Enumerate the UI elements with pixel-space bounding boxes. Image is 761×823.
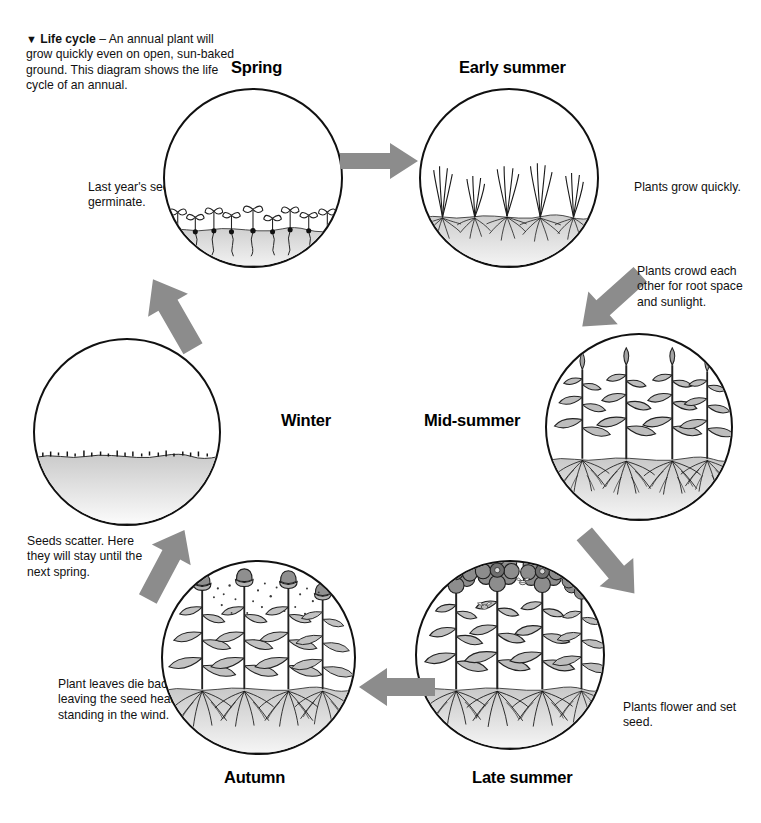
note-late-summer: Plants flower and set seed.: [623, 700, 743, 731]
arrow-winter-to-spring: [138, 268, 208, 360]
arrow-spring-to-early-summer: [338, 140, 420, 182]
winter-illustration: [35, 340, 219, 524]
spring-illustration: [165, 90, 341, 266]
season-label-late-summer: Late summer: [472, 768, 573, 787]
figure-caption: ▼ Life cycle – An annual plant will grow…: [26, 32, 241, 94]
note-early-summer: Plants grow quickly.: [634, 180, 759, 195]
stage-circle-early-summer: [419, 88, 599, 268]
season-label-early-summer: Early summer: [459, 58, 566, 77]
life-cycle-diagram: ▼ Life cycle – An annual plant will grow…: [0, 0, 761, 823]
season-label-mid-summer: Mid-summer: [424, 411, 520, 430]
caption-triangle-icon: ▼: [26, 33, 37, 45]
stage-circle-mid-summer: [545, 333, 733, 521]
late-summer-illustration: [417, 562, 603, 748]
season-label-autumn: Autumn: [224, 768, 285, 787]
early-summer-illustration: [421, 90, 597, 266]
season-label-spring: Spring: [231, 58, 282, 77]
stage-circle-winter: [33, 338, 221, 526]
arrow-late-summer-to-autumn: [357, 664, 437, 710]
season-label-winter: Winter: [281, 411, 331, 430]
note-mid-summer: Plants crowd each other for root space a…: [637, 264, 757, 310]
note-winter: Seeds scatter. Here they will stay until…: [27, 534, 157, 580]
stage-circle-spring: [163, 88, 343, 268]
arrow-mid-summer-to-late-summer: [580, 517, 642, 605]
mid-summer-illustration: [547, 335, 731, 519]
caption-title: Life cycle: [40, 32, 96, 46]
stage-circle-late-summer: [415, 560, 605, 750]
